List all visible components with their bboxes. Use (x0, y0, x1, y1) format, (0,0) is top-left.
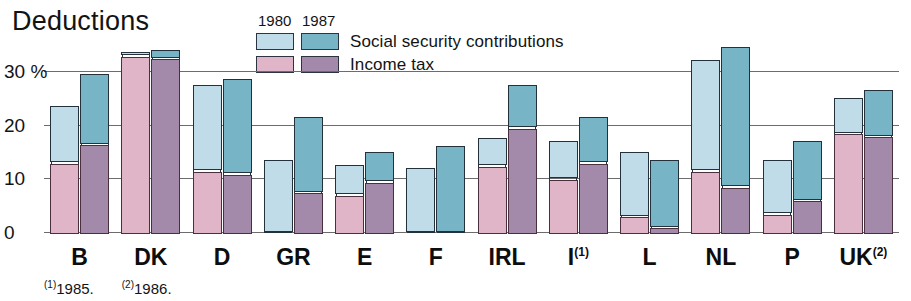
bar-group-uk (828, 40, 899, 233)
y-axis-label-0: 0 (4, 222, 15, 244)
bar-nl-1987[interactable] (722, 48, 750, 233)
segment-income-tax-p-1980[interactable] (763, 215, 792, 234)
segment-income-tax-d-1980[interactable] (193, 172, 222, 234)
segment-income-tax-b-1980[interactable] (50, 164, 79, 234)
segment-social-security-f-1987[interactable] (436, 146, 465, 232)
category-label-f: F (400, 244, 471, 271)
segment-income-tax-dk-1980[interactable] (121, 57, 150, 234)
segment-social-security-gr-1987[interactable] (294, 117, 323, 192)
segment-income-tax-dk-1987[interactable] (151, 59, 180, 233)
segment-income-tax-uk-1987[interactable] (864, 137, 893, 234)
segment-social-security-l-1980[interactable] (620, 152, 649, 216)
bar-group-i (543, 40, 614, 233)
category-label-d: D (187, 244, 258, 271)
segment-social-security-d-1980[interactable] (193, 85, 222, 171)
segment-income-tax-irl-1987[interactable] (508, 129, 537, 234)
bar-d-1980[interactable] (193, 86, 221, 233)
segment-social-security-gr-1980[interactable] (264, 160, 293, 232)
segment-social-security-l-1987[interactable] (650, 160, 679, 227)
segment-income-tax-d-1987[interactable] (223, 175, 252, 234)
segment-income-tax-e-1987[interactable] (365, 183, 394, 234)
bar-d-1987[interactable] (223, 80, 251, 233)
y-axis-label-30: 30 % (4, 61, 47, 83)
footnote-2: (2)1986. (122, 279, 172, 297)
segment-income-tax-i-1987[interactable] (579, 164, 608, 234)
footnote-marker-1: (1) (44, 279, 56, 290)
category-footnote-marker-i: (1) (574, 245, 589, 259)
bar-gr-1980[interactable] (264, 161, 292, 233)
segment-income-tax-l-1980[interactable] (620, 217, 649, 233)
bar-group-irl (472, 40, 543, 233)
segment-income-tax-i-1980[interactable] (549, 180, 578, 234)
bar-group-dk (115, 40, 186, 233)
category-label-l: L (614, 244, 685, 271)
bar-b-1980[interactable] (51, 107, 79, 233)
bar-l-1980[interactable] (621, 153, 649, 233)
bar-irl-1980[interactable] (478, 139, 506, 233)
bar-irl-1987[interactable] (508, 86, 536, 233)
segment-social-security-p-1980[interactable] (763, 160, 792, 214)
category-label-gr: GR (258, 244, 329, 271)
bar-f-1987[interactable] (437, 147, 465, 233)
bar-group-nl (685, 40, 756, 233)
segment-social-security-f-1980[interactable] (406, 168, 435, 232)
bar-i-1980[interactable] (549, 142, 577, 233)
bar-group-p (757, 40, 828, 233)
chart-title: Deductions (12, 6, 149, 37)
bar-gr-1987[interactable] (294, 118, 322, 233)
category-label-irl: IRL (472, 244, 543, 271)
segment-social-security-b-1987[interactable] (80, 74, 109, 144)
footnote-1: (1)1985. (44, 279, 94, 297)
segment-social-security-i-1980[interactable] (549, 141, 578, 179)
segment-income-tax-irl-1980[interactable] (478, 167, 507, 234)
bar-f-1980[interactable] (407, 169, 435, 233)
segment-social-security-nl-1980[interactable] (691, 60, 720, 170)
segment-social-security-irl-1980[interactable] (478, 138, 507, 165)
bar-e-1980[interactable] (336, 166, 364, 233)
y-axis-label-10: 10 (4, 168, 25, 190)
segment-social-security-e-1987[interactable] (365, 152, 394, 181)
bar-b-1987[interactable] (81, 75, 109, 233)
segment-social-security-nl-1987[interactable] (721, 47, 750, 186)
segment-social-security-uk-1980[interactable] (834, 98, 863, 133)
footnotes: (1)1985.(2)1986. (44, 279, 172, 297)
segment-social-security-irl-1987[interactable] (508, 85, 537, 128)
segment-social-security-dk-1980[interactable] (121, 52, 150, 55)
bar-p-1987[interactable] (793, 142, 821, 233)
legend-year-1980: 1980 (258, 12, 291, 29)
bar-e-1987[interactable] (366, 153, 394, 233)
bar-dk-1980[interactable] (122, 53, 150, 233)
bar-uk-1987[interactable] (864, 91, 892, 233)
bar-nl-1980[interactable] (692, 61, 720, 233)
bar-group-e (329, 40, 400, 233)
bar-group-f (400, 40, 471, 233)
segment-social-security-dk-1987[interactable] (151, 50, 180, 58)
bar-dk-1987[interactable] (152, 51, 180, 233)
category-label-nl: NL (685, 244, 756, 271)
bar-uk-1980[interactable] (834, 99, 862, 233)
bar-group-b (44, 40, 115, 233)
segment-social-security-b-1980[interactable] (50, 106, 79, 162)
bar-group-d (187, 40, 258, 233)
segment-income-tax-nl-1980[interactable] (691, 172, 720, 234)
segment-income-tax-l-1987[interactable] (650, 228, 679, 233)
segment-social-security-uk-1987[interactable] (864, 90, 893, 136)
segment-income-tax-gr-1987[interactable] (294, 193, 323, 233)
segment-income-tax-uk-1980[interactable] (834, 134, 863, 233)
bar-l-1987[interactable] (651, 161, 679, 233)
segment-social-security-e-1980[interactable] (335, 165, 364, 194)
segment-income-tax-e-1980[interactable] (335, 196, 364, 234)
segment-social-security-p-1987[interactable] (793, 141, 822, 200)
bar-p-1980[interactable] (763, 161, 791, 233)
segment-social-security-d-1987[interactable] (223, 79, 252, 173)
segment-income-tax-b-1987[interactable] (80, 145, 109, 233)
category-label-uk: UK(2) (828, 244, 899, 271)
segment-income-tax-nl-1987[interactable] (721, 188, 750, 234)
segment-income-tax-p-1987[interactable] (793, 201, 822, 233)
segment-social-security-i-1987[interactable] (579, 117, 608, 163)
bar-group-l (614, 40, 685, 233)
category-label-b: B (44, 244, 115, 271)
bar-group-gr (258, 40, 329, 233)
bar-i-1987[interactable] (579, 118, 607, 233)
category-label-p: P (757, 244, 828, 271)
